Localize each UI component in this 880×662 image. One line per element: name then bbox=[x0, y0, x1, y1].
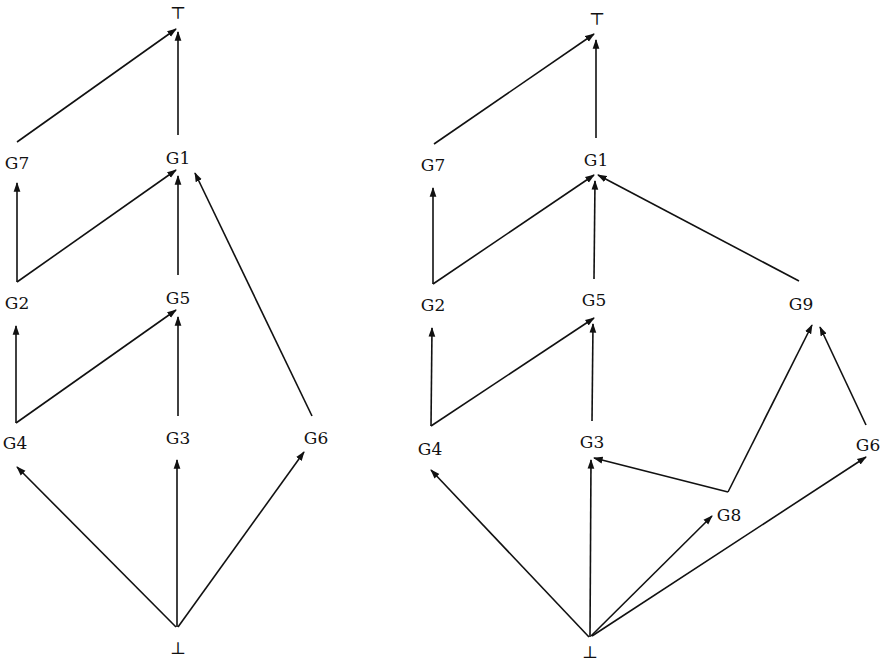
edge-g6-to-g9-arrow bbox=[820, 327, 866, 425]
node-g3: G3 bbox=[580, 434, 604, 451]
edge-g6-to-g1-arrow bbox=[195, 173, 312, 416]
edge-g4-to-g2-arrow bbox=[431, 328, 432, 426]
node-g7: G7 bbox=[5, 155, 29, 172]
edge-g2-to-g1-arrow bbox=[17, 170, 176, 282]
edge-g4-to-g5-arrow bbox=[16, 310, 176, 423]
edge-bottom-to-g4-arrow bbox=[431, 470, 589, 637]
edge-bottom-to-g8-arrow bbox=[591, 516, 712, 636]
edge-g5-to-g1-arrow bbox=[594, 181, 595, 279]
node-g2: G2 bbox=[421, 297, 445, 314]
node-g5: G5 bbox=[582, 292, 606, 309]
edge-bottom-to-g6-arrow bbox=[592, 457, 866, 636]
edge-g8-to-g9-arrow bbox=[728, 325, 812, 492]
node-g4: G4 bbox=[3, 435, 27, 452]
node-g6: G6 bbox=[856, 437, 880, 454]
node-g6: G6 bbox=[304, 430, 328, 447]
node-g8: G8 bbox=[717, 507, 741, 524]
edge-g3-to-g5-arrow bbox=[592, 324, 593, 421]
node-g1: G1 bbox=[584, 152, 608, 169]
edge-bottom-to-g3-arrow bbox=[590, 460, 591, 637]
left-graph-edges bbox=[16, 29, 312, 627]
node-bottom: ⊥ bbox=[582, 644, 598, 661]
node-g2: G2 bbox=[5, 295, 29, 312]
edge-g7-to-top-arrow bbox=[17, 29, 176, 142]
node-bottom: ⊥ bbox=[170, 640, 186, 657]
edge-g7-to-top-arrow bbox=[434, 34, 594, 144]
edge-bottom-to-g6-arrow bbox=[178, 452, 304, 627]
node-top: ⊤ bbox=[589, 11, 605, 28]
edge-bottom-to-g4-arrow bbox=[17, 467, 176, 627]
node-g7: G7 bbox=[421, 157, 445, 174]
edge-g4-to-g5-arrow bbox=[431, 318, 594, 426]
node-g1: G1 bbox=[166, 150, 190, 167]
node-g9: G9 bbox=[789, 296, 813, 313]
node-g3: G3 bbox=[166, 430, 190, 447]
node-top: ⊤ bbox=[170, 5, 186, 22]
edge-g9-to-g1-arrow bbox=[598, 175, 799, 281]
right-graph-edges bbox=[431, 34, 866, 637]
edge-g8-to-g3-arrow bbox=[594, 458, 728, 492]
node-g4: G4 bbox=[418, 441, 442, 458]
node-g5: G5 bbox=[166, 290, 190, 307]
edge-g2-to-g1-arrow bbox=[433, 175, 594, 284]
